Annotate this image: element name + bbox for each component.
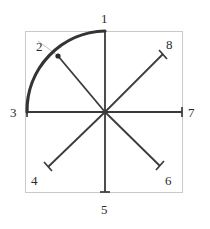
spoke-to-point-8 bbox=[105, 54, 163, 112]
spoke-to-point-6 bbox=[105, 112, 160, 166]
point-4-label: 4 bbox=[31, 174, 38, 187]
point-6-label: 6 bbox=[165, 174, 172, 187]
spoke-to-point-4 bbox=[48, 112, 105, 167]
spoke-to-point-2 bbox=[58, 56, 105, 112]
point-7-label: 7 bbox=[188, 106, 195, 119]
point-1-label: 1 bbox=[101, 12, 108, 25]
point-2-marker bbox=[55, 53, 60, 58]
point-3-label: 3 bbox=[10, 106, 17, 119]
diagram-canvas bbox=[0, 0, 210, 229]
point-8-label: 8 bbox=[166, 38, 173, 51]
figure-root: 1 2 3 4 5 6 7 8 bbox=[0, 0, 210, 229]
point-5-label: 5 bbox=[101, 203, 108, 216]
point-2-label: 2 bbox=[36, 40, 43, 53]
